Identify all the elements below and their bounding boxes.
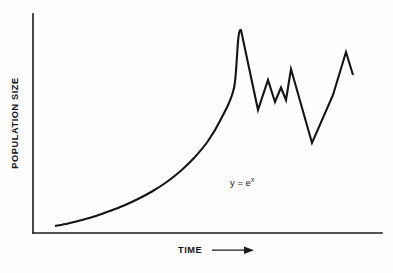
chart-background <box>0 0 393 273</box>
equation-base: y = e <box>230 177 251 188</box>
y-axis-title: POPULATION SIZE <box>10 77 20 169</box>
chart-svg: POPULATION SIZE TIME y = ex <box>0 0 393 273</box>
figure-container: POPULATION SIZE TIME y = ex <box>0 0 393 273</box>
x-axis-title: TIME <box>178 245 202 255</box>
